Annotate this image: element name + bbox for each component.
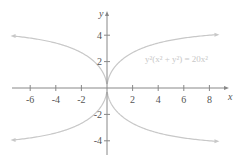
curve-arrow-icon bbox=[214, 33, 219, 37]
curve-branch bbox=[13, 36, 106, 84]
x-tick-label: 4 bbox=[156, 94, 161, 105]
x-tick-label: -4 bbox=[52, 94, 60, 105]
axes: -6-4-22468 42-2-4 bbox=[12, 11, 229, 155]
curve-arrow-icon bbox=[11, 138, 16, 142]
x-tick-label: 6 bbox=[181, 94, 186, 105]
y-tick-label: -4 bbox=[94, 135, 102, 146]
x-tick-label: -6 bbox=[26, 94, 34, 105]
curve-branch bbox=[107, 92, 216, 141]
equation-label: y²(x² + y²) = 20x² bbox=[145, 54, 208, 64]
curve-arrow-icon bbox=[11, 34, 16, 38]
y-tick-label: 4 bbox=[97, 30, 102, 41]
y-tick-label: 2 bbox=[97, 56, 102, 67]
y-tick-label: -2 bbox=[94, 109, 102, 120]
x-axis-arrow-icon bbox=[224, 86, 229, 90]
y-axis-arrow-icon bbox=[105, 11, 109, 16]
x-tick-label: 2 bbox=[130, 94, 135, 105]
chart: -6-4-22468 42-2-4 x y y²(x² + y²) = 20x² bbox=[0, 0, 241, 161]
curve-arrow-icon bbox=[214, 139, 219, 143]
y-axis-label: y bbox=[98, 8, 104, 19]
x-axis-label: x bbox=[227, 91, 233, 102]
x-tick-label: -2 bbox=[77, 94, 85, 105]
x-tick-label: 8 bbox=[207, 94, 212, 105]
